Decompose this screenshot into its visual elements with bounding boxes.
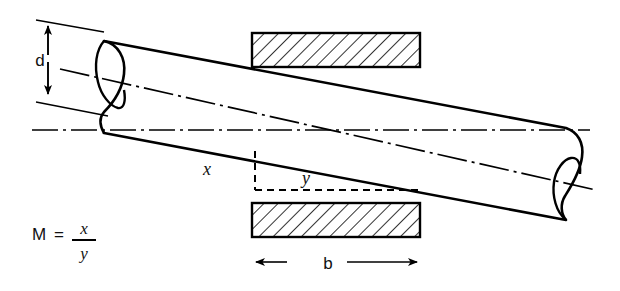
top-bearing-block [252,33,420,67]
label-y: y [300,168,310,188]
formula-lhs: M [32,225,46,244]
bottom-bearing-block [252,203,420,237]
diagram-canvas: d x y b M = x y [0,0,620,291]
misalignment-diagram: d x y b M = x y [0,0,620,291]
formula-denominator: y [78,244,88,263]
label-x: x [202,159,211,179]
formula-numerator: x [79,219,88,238]
label-b: b [323,254,332,273]
top-block-body [252,33,420,67]
label-d: d [35,51,44,70]
bottom-block-body [252,203,420,237]
formula-equals: = [54,225,64,244]
